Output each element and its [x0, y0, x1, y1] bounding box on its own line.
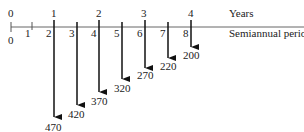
amount-label-period-2: 470 [45, 121, 62, 132]
period-label-8: 8 [183, 27, 189, 39]
period-label-1: 1 [25, 27, 31, 39]
year-label-1: 1 [51, 7, 57, 19]
periods-axis-title: Semiannual periods [229, 27, 304, 39]
period-label-0: 0 [8, 34, 14, 46]
years-axis-title: Years [229, 7, 254, 19]
amount-label-period-3: 420 [68, 108, 85, 120]
period-label-6: 6 [137, 27, 143, 39]
year-label-2: 2 [96, 7, 102, 19]
year-label-4: 4 [188, 7, 194, 19]
period-label-4: 4 [91, 27, 97, 39]
amount-label-period-7: 220 [160, 60, 177, 72]
amount-label-period-8: 200 [183, 49, 200, 61]
period-label-2: 2 [46, 27, 52, 39]
cash-flow-diagram: 0 1 2 3 4 Years 0 1 2 3 4 5 6 7 8 Semian… [0, 0, 304, 132]
period-label-5: 5 [114, 27, 120, 39]
amount-label-period-4: 370 [91, 95, 108, 107]
period-label-7: 7 [160, 27, 166, 39]
year-label-0: 0 [8, 7, 14, 19]
amount-label-period-5: 320 [114, 82, 131, 94]
amount-label-period-6: 270 [137, 69, 154, 81]
period-label-3: 3 [69, 27, 75, 39]
year-label-3: 3 [141, 7, 147, 19]
